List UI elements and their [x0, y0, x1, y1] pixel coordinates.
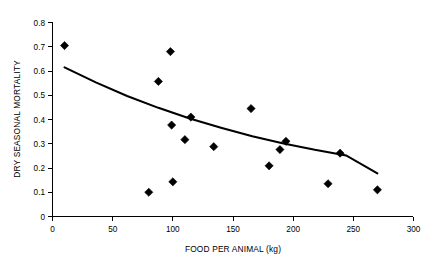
- x-axis-title: FOOD PER ANIMAL (kg): [185, 244, 281, 254]
- x-tick-label: 50: [108, 225, 118, 234]
- x-tick-label: 100: [166, 225, 180, 234]
- y-axis-title: DRY SEASONAL MORTALITY: [12, 60, 22, 178]
- y-tick-label: 0.3: [34, 140, 46, 149]
- x-tick-label: 250: [346, 225, 360, 234]
- scatter-chart: 0 0.1 0.2 0.3 0.4 0.5 0.6 0.7 0.8 0 50 1…: [0, 0, 441, 266]
- y-tick-label: 0.2: [34, 164, 46, 173]
- chart-background: [0, 0, 441, 266]
- x-tick-label: 300: [407, 225, 421, 234]
- y-axis-tick-labels: 0 0.1 0.2 0.3 0.4 0.5 0.6 0.7 0.8: [34, 19, 46, 222]
- y-tick-label: 0.8: [34, 19, 46, 28]
- y-tick-label: 0.7: [34, 43, 46, 52]
- y-tick-label: 0.5: [34, 91, 46, 100]
- y-tick-label: 0.1: [34, 188, 46, 197]
- x-tick-label: 0: [50, 225, 55, 234]
- chart-page: 0 0.1 0.2 0.3 0.4 0.5 0.6 0.7 0.8 0 50 1…: [0, 0, 441, 266]
- x-tick-label: 200: [286, 225, 300, 234]
- x-tick-label: 150: [226, 225, 240, 234]
- y-tick-label: 0.4: [34, 116, 46, 125]
- y-tick-label: 0.6: [34, 67, 46, 76]
- y-tick-label: 0: [40, 213, 45, 222]
